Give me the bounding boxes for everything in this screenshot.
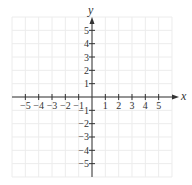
coordinate-plane: −5−4−3−2−112345−5−4−3−2−112345 x y	[0, 0, 192, 185]
x-tick-label: 5	[156, 100, 161, 111]
x-tick-label: 3	[129, 100, 134, 111]
y-axis-label: y	[87, 3, 94, 17]
y-tick-label: 1	[84, 78, 89, 89]
y-tick-label: −4	[78, 145, 89, 156]
x-tick-label: −3	[47, 100, 58, 111]
x-tick-label: 1	[103, 100, 108, 111]
x-tick-label: 2	[116, 100, 121, 111]
y-tick-label: −3	[78, 131, 89, 142]
y-tick-label: 4	[84, 38, 89, 49]
x-tick-label: 4	[143, 100, 148, 111]
y-tick-label: −5	[78, 158, 89, 169]
y-tick-label: −1	[78, 105, 89, 116]
y-tick-label: 2	[84, 65, 89, 76]
y-tick-label: 5	[84, 25, 89, 36]
x-axis-label: x	[180, 89, 187, 103]
x-axis-arrow-icon	[172, 95, 179, 100]
axes	[12, 17, 179, 177]
x-tick-label: −4	[33, 100, 44, 111]
y-tick-label: −2	[78, 118, 89, 129]
x-tick-label: −2	[60, 100, 71, 111]
y-axis-arrow-icon	[90, 17, 95, 24]
x-tick-label: −5	[20, 100, 31, 111]
y-tick-label: 3	[84, 52, 89, 63]
